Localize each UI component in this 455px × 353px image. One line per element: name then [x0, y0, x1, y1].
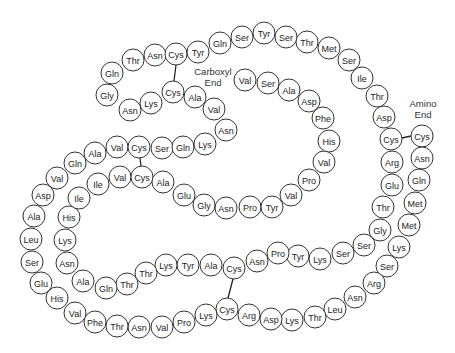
residue-label: Asn	[147, 51, 163, 61]
disulfide-bond-line	[174, 65, 176, 81]
residue-gln: Gln	[64, 152, 86, 174]
residue-asn: Asn	[344, 286, 366, 308]
residue-cys: Cys	[411, 125, 433, 147]
residue-label: Thr	[120, 280, 134, 290]
residue-ala: Ala	[184, 86, 206, 108]
residue-tyr: Tyr	[261, 196, 283, 218]
residue-glu: Glu	[173, 184, 195, 206]
residue-label: Lys	[392, 243, 406, 253]
residue-ser: Ser	[338, 49, 360, 71]
residue-thr: Thr	[122, 49, 144, 71]
residue-label: Cys	[383, 135, 399, 145]
residue-tyr: Tyr	[177, 254, 199, 276]
residue-asn: Asn	[215, 197, 237, 219]
residue-his: His	[318, 130, 340, 152]
amino-end-label: Amino End	[393, 98, 453, 120]
residue-asp: Asp	[298, 90, 320, 112]
residue-label: Ala	[88, 149, 101, 159]
residue-ser: Ser	[332, 242, 354, 264]
residue-label: Ile	[93, 180, 103, 190]
residue-label: Ala	[282, 86, 295, 96]
residue-asn: Asn	[246, 250, 268, 272]
residue-pro: Pro	[298, 169, 320, 191]
residue-label: Ile	[74, 194, 84, 204]
residue-ser: Ser	[257, 72, 279, 94]
residue-asn: Asn	[128, 316, 150, 338]
disulfide-bond-line	[228, 279, 233, 298]
residue-gly: Gly	[96, 84, 118, 106]
residue-label: Glu	[177, 191, 191, 201]
residue-lys: Lys	[281, 309, 303, 331]
residue-label: Asp	[301, 97, 317, 107]
residue-label: Val	[285, 191, 297, 201]
residue-label: Thr	[376, 203, 390, 213]
residue-label: Cys	[219, 305, 235, 315]
residue-label: Ser	[380, 262, 394, 272]
residue-label: Asp	[376, 113, 392, 123]
residue-label: Ser	[342, 56, 356, 66]
residue-cys: Cys	[380, 128, 402, 150]
residue-thr: Thr	[296, 31, 318, 53]
residue-lys: Lys	[309, 248, 331, 270]
residue-tyr: Tyr	[187, 41, 209, 63]
residue-gly: Gly	[193, 194, 215, 216]
residue-label: Gln	[176, 143, 190, 153]
residue-label: Cys	[131, 143, 147, 153]
residue-ala: Ala	[72, 270, 94, 292]
residue-arg: Arg	[363, 272, 385, 294]
residue-label: Gln	[213, 39, 227, 49]
residue-pro: Pro	[239, 196, 261, 218]
residue-ile: Ile	[68, 187, 90, 209]
residue-ile: Ile	[351, 67, 373, 89]
residue-label: His	[63, 213, 76, 223]
residue-glu: Glu	[381, 174, 403, 196]
residue-label: Pro	[177, 318, 191, 328]
residue-met: Met	[398, 214, 420, 236]
residue-label: Gln	[68, 159, 82, 169]
residue-ser: Ser	[275, 26, 297, 48]
residue-label: Tyr	[258, 29, 271, 39]
residue-val: Val	[151, 316, 173, 338]
disulfide-bond-line	[402, 136, 411, 138]
amino-line2: End	[393, 109, 453, 120]
residue-label: Arg	[385, 158, 399, 168]
residue-label: Asn	[218, 126, 234, 136]
residue-label: Ser	[261, 79, 275, 89]
residue-label: Cys	[226, 264, 242, 274]
residue-label: Pro	[271, 249, 285, 259]
residue-label: Ser	[155, 144, 169, 154]
residue-ala: Ala	[84, 142, 106, 164]
residue-cys: Cys	[131, 166, 153, 188]
residue-val: Val	[313, 151, 335, 173]
residue-thr: Thr	[372, 196, 394, 218]
residue-label: Gly	[100, 91, 114, 101]
residue-val: Val	[46, 167, 68, 189]
carboxyl-line2: End	[183, 77, 243, 88]
residue-label: Tyr	[266, 203, 279, 213]
residue-ser: Ser	[151, 137, 173, 159]
amino-line1: Amino	[393, 98, 453, 109]
residue-label: Arg	[367, 279, 381, 289]
residue-arg: Arg	[238, 304, 260, 326]
residue-label: Ala	[76, 277, 89, 287]
residue-label: Val	[111, 143, 123, 153]
residue-label: Asn	[131, 323, 147, 333]
residue-label: Ser	[336, 249, 350, 259]
residue-asp: Asp	[373, 106, 395, 128]
residue-label: Ala	[204, 261, 217, 271]
residue-label: Ala	[27, 212, 40, 222]
residue-pro: Pro	[267, 242, 289, 264]
residue-cys: Cys	[128, 136, 150, 158]
residue-label: Leu	[327, 305, 342, 315]
residue-ser: Ser	[353, 234, 375, 256]
residue-cys: Cys	[223, 257, 245, 279]
disulfide-bond-line	[140, 158, 141, 166]
residue-gln: Gln	[172, 136, 194, 158]
residue-label: Val	[156, 323, 168, 333]
residue-thr: Thr	[366, 85, 388, 107]
residue-label: Ser	[25, 258, 39, 268]
residue-label: Cys	[165, 88, 181, 98]
residue-label: Thr	[126, 56, 140, 66]
residue-cys: Cys	[162, 81, 184, 103]
residue-label: Cys	[414, 132, 430, 142]
